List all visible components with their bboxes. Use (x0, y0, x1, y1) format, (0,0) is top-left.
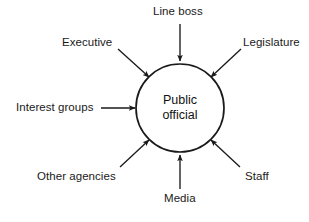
node-label-interest-groups: Interest groups (16, 101, 93, 114)
arrow-staff (211, 140, 240, 167)
node-label-legislature: Legislature (243, 36, 300, 49)
arrow-legislature (211, 49, 241, 77)
influence-diagram: Public official Line boss Executive Legi… (0, 0, 309, 222)
public-official-label-line1: Public (140, 93, 220, 108)
node-label-executive: Executive (62, 36, 112, 49)
node-label-media: Media (164, 192, 196, 205)
public-official-label: Public official (140, 93, 220, 123)
public-official-label-line2: official (140, 108, 220, 123)
node-label-line-boss: Line boss (153, 5, 203, 18)
arrow-executive (118, 49, 149, 77)
node-label-staff: Staff (245, 170, 269, 183)
arrow-other-agencies (120, 140, 149, 167)
node-label-other-agencies: Other agencies (37, 170, 116, 183)
